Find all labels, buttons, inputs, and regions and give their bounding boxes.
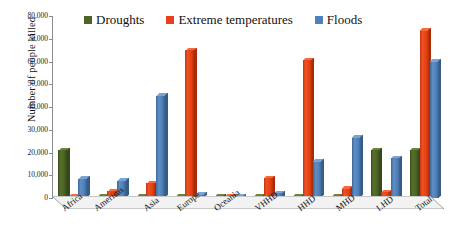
y-tick-label: 20,000 <box>2 149 52 157</box>
y-tick-label: 10,000 <box>2 171 52 179</box>
bar-front-face <box>430 62 439 199</box>
bar-hhd-extreme-temperatures[interactable] <box>303 60 312 198</box>
x-tick-cell: Asia <box>131 203 170 249</box>
bar-groups <box>53 16 444 198</box>
bar-group <box>288 16 327 198</box>
y-axis-title: Number of people killed <box>26 0 37 145</box>
bar-hhd-floods[interactable] <box>313 162 322 198</box>
bar-lhd-droughts[interactable] <box>371 150 380 198</box>
bar-group <box>248 16 287 198</box>
bar-mhd-floods[interactable] <box>352 138 361 198</box>
bar-chart: Number of people killed Droughts Extreme… <box>0 0 455 249</box>
x-tick-cell: VHHD <box>248 203 287 249</box>
bar-group <box>327 16 366 198</box>
bar-group <box>405 16 444 198</box>
bar-europe-extreme-temperatures[interactable] <box>185 50 194 198</box>
bar-lhd-floods[interactable] <box>391 158 400 198</box>
bar-front-face <box>185 50 194 198</box>
x-tick-cell: HHD <box>288 203 327 249</box>
bar-front-face <box>410 150 419 198</box>
bar-front-face <box>156 96 165 198</box>
bar-total-droughts[interactable] <box>410 150 419 198</box>
bar-front-face <box>371 150 380 198</box>
bar-total-floods[interactable] <box>430 62 439 199</box>
y-tick-label: 50,000 <box>2 80 52 88</box>
bar-front-face <box>391 158 400 198</box>
bar-group <box>131 16 170 198</box>
x-tick-cell: Africa <box>53 203 92 249</box>
x-axis-labels: AfricaAmericasAsiaEuropeOceaniaVHHDHHDMH… <box>53 203 444 249</box>
x-tick-cell: Total <box>405 203 444 249</box>
plot-area: 010,00020,00030,00040,00050,00060,00070,… <box>52 16 444 198</box>
y-tick-label: 40,000 <box>2 103 52 111</box>
bar-front-face <box>352 138 361 198</box>
x-tick-cell: Oceania <box>209 203 248 249</box>
bar-africa-droughts[interactable] <box>58 150 67 198</box>
bar-front-face <box>420 31 429 198</box>
bar-front-face <box>303 60 312 198</box>
x-tick-cell: MHD <box>327 203 366 249</box>
bar-group <box>366 16 405 198</box>
bar-group <box>209 16 248 198</box>
x-tick-cell: Europe <box>170 203 209 249</box>
x-tick-cell: LHD <box>366 203 405 249</box>
y-tick-label: 0 <box>2 194 52 202</box>
bar-group <box>53 16 92 198</box>
y-tick-label: 60,000 <box>2 58 52 66</box>
y-tick-label: 30,000 <box>2 126 52 134</box>
y-tick-label: 70,000 <box>2 35 52 43</box>
bar-group <box>92 16 131 198</box>
bar-total-extreme-temperatures[interactable] <box>420 31 429 198</box>
bar-front-face <box>313 162 322 198</box>
bar-group <box>170 16 209 198</box>
y-tick-label: 80,000 <box>2 12 52 20</box>
bar-asia-floods[interactable] <box>156 96 165 198</box>
bar-front-face <box>58 150 67 198</box>
x-tick-cell: Americas <box>92 203 131 249</box>
